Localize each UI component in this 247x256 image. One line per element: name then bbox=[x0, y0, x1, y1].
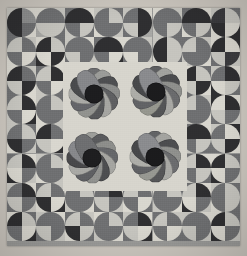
quarter-circle-unit bbox=[167, 37, 182, 52]
quarter-circle-unit bbox=[196, 8, 211, 23]
quarter-circle-unit bbox=[7, 124, 22, 139]
quarter-circle-unit bbox=[7, 110, 22, 125]
quarter-circle-unit bbox=[138, 197, 153, 212]
quarter-circle-unit bbox=[211, 197, 226, 212]
quarter-circle-unit bbox=[65, 37, 80, 52]
quarter-circle-unit bbox=[211, 81, 226, 96]
quarter-circle-unit bbox=[211, 52, 226, 67]
quarter-circle-unit bbox=[196, 197, 211, 212]
quarter-circle-unit bbox=[109, 197, 124, 212]
quarter-circle-unit bbox=[36, 212, 51, 227]
quarter-circle-unit bbox=[22, 52, 37, 67]
quarter-circle-unit bbox=[36, 183, 51, 198]
quarter-circle-unit bbox=[36, 154, 51, 169]
quarter-circle-unit bbox=[182, 8, 197, 23]
quarter-circle-unit bbox=[36, 66, 51, 81]
quarter-circle-unit bbox=[7, 23, 22, 38]
quarter-circle-unit bbox=[94, 212, 109, 227]
quarter-circle-unit bbox=[7, 8, 22, 23]
quarter-circle-unit bbox=[22, 23, 37, 38]
quarter-circle-unit bbox=[22, 8, 37, 23]
quarter-circle-unit bbox=[65, 212, 80, 227]
quarter-circle-unit bbox=[211, 95, 226, 110]
quarter-circle-unit bbox=[167, 212, 182, 227]
quarter-circle-unit bbox=[211, 66, 226, 81]
quarter-circle-unit bbox=[123, 37, 138, 52]
quarter-circle-unit bbox=[36, 110, 51, 125]
quarter-circle-unit bbox=[22, 124, 37, 139]
quarter-circle-unit bbox=[211, 124, 226, 139]
quarter-circle-unit bbox=[225, 183, 240, 198]
quarter-circle-unit bbox=[7, 52, 22, 67]
quarter-circle-unit bbox=[22, 168, 37, 183]
quilt-photograph bbox=[0, 0, 247, 256]
quarter-circle-unit bbox=[36, 52, 51, 67]
dresden-plate-bottom-left bbox=[63, 129, 121, 187]
dresden-plate-top-left bbox=[65, 65, 123, 123]
quarter-circle-unit bbox=[123, 197, 138, 212]
quarter-circle-unit bbox=[123, 226, 138, 241]
quarter-circle-unit bbox=[196, 37, 211, 52]
quarter-circle-unit bbox=[80, 212, 95, 227]
dresden-plate-top-right bbox=[127, 63, 185, 121]
quarter-circle-unit bbox=[109, 212, 124, 227]
quarter-circle-unit bbox=[153, 226, 168, 241]
quarter-circle-unit bbox=[22, 212, 37, 227]
quarter-circle-unit bbox=[51, 37, 66, 52]
quarter-circle-unit bbox=[7, 183, 22, 198]
quarter-circle-unit bbox=[109, 8, 124, 23]
dresden-plate-bottom-right bbox=[126, 128, 184, 186]
quarter-circle-unit bbox=[123, 8, 138, 23]
flower-center bbox=[147, 83, 166, 102]
quarter-circle-unit bbox=[109, 23, 124, 38]
quarter-circle-unit bbox=[7, 139, 22, 154]
quarter-circle-unit bbox=[22, 95, 37, 110]
quarter-circle-unit bbox=[7, 81, 22, 96]
quarter-circle-unit bbox=[167, 23, 182, 38]
quarter-circle-unit bbox=[196, 110, 211, 125]
quarter-circle-unit bbox=[22, 81, 37, 96]
quarter-circle-unit bbox=[123, 23, 138, 38]
quarter-circle-unit bbox=[211, 183, 226, 198]
quarter-circle-unit bbox=[94, 37, 109, 52]
quarter-circle-unit bbox=[225, 154, 240, 169]
quarter-circle-unit bbox=[94, 23, 109, 38]
quarter-circle-unit bbox=[196, 81, 211, 96]
quarter-circle-unit bbox=[65, 23, 80, 38]
quarter-circle-unit bbox=[225, 139, 240, 154]
quarter-circle-unit bbox=[225, 168, 240, 183]
quarter-circle-unit bbox=[36, 81, 51, 96]
quarter-circle-unit bbox=[7, 226, 22, 241]
quarter-circle-unit bbox=[225, 81, 240, 96]
quarter-circle-unit bbox=[225, 226, 240, 241]
quarter-circle-unit bbox=[167, 197, 182, 212]
quarter-circle-unit bbox=[7, 197, 22, 212]
quarter-circle-unit bbox=[225, 52, 240, 67]
quarter-circle-unit bbox=[7, 95, 22, 110]
quarter-circle-unit bbox=[211, 168, 226, 183]
quarter-circle-unit bbox=[138, 226, 153, 241]
flower-center bbox=[146, 148, 165, 167]
quarter-circle-unit bbox=[22, 183, 37, 198]
quarter-circle-unit bbox=[211, 212, 226, 227]
quarter-circle-unit bbox=[22, 197, 37, 212]
quarter-circle-unit bbox=[36, 197, 51, 212]
quarter-circle-unit bbox=[167, 8, 182, 23]
quarter-circle-unit bbox=[196, 154, 211, 169]
quarter-circle-unit bbox=[80, 8, 95, 23]
quarter-circle-unit bbox=[22, 154, 37, 169]
quarter-circle-unit bbox=[153, 8, 168, 23]
quarter-circle-unit bbox=[196, 139, 211, 154]
quarter-circle-unit bbox=[51, 8, 66, 23]
quarter-circle-unit bbox=[225, 95, 240, 110]
quarter-circle-unit bbox=[22, 37, 37, 52]
quarter-circle-unit bbox=[80, 197, 95, 212]
quarter-circle-unit bbox=[123, 212, 138, 227]
quarter-circle-unit bbox=[22, 66, 37, 81]
quarter-circle-unit bbox=[51, 23, 66, 38]
quarter-circle-unit bbox=[7, 168, 22, 183]
quarter-circle-unit bbox=[22, 226, 37, 241]
quarter-circle-unit bbox=[225, 37, 240, 52]
quarter-circle-unit bbox=[225, 23, 240, 38]
quarter-circle-unit bbox=[196, 183, 211, 198]
